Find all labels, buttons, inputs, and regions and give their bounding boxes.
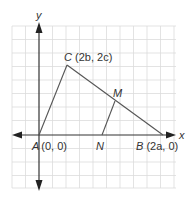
label-B: B (2a, 0) bbox=[136, 140, 178, 152]
segment-CB bbox=[67, 65, 163, 135]
label-C: C (2b, 2c) bbox=[64, 51, 112, 63]
triangle bbox=[39, 65, 163, 135]
coordinate-diagram: x y C (2b, 2c) M A(0, 0) N B (2a, 0) bbox=[0, 0, 189, 201]
label-A: A(0, 0) bbox=[31, 140, 67, 152]
y-axis: y bbox=[35, 9, 43, 191]
segment-AC bbox=[39, 65, 67, 135]
segment-MN bbox=[102, 101, 115, 135]
label-N: N bbox=[96, 140, 104, 152]
y-axis-label: y bbox=[35, 9, 43, 21]
y-axis-down-arrow-icon bbox=[36, 180, 43, 191]
x-axis-left-arrow-icon bbox=[12, 132, 22, 139]
y-axis-up-arrow-icon bbox=[36, 22, 43, 33]
x-axis-label: x bbox=[178, 129, 185, 141]
label-M: M bbox=[113, 87, 123, 99]
x-axis-right-arrow-icon bbox=[166, 132, 176, 139]
